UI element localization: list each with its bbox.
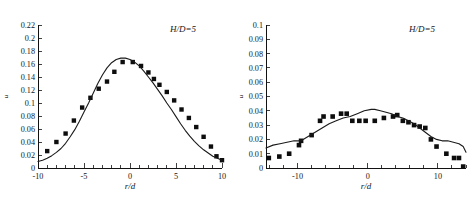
data-point — [452, 156, 457, 161]
x-tick-label: -10 — [292, 172, 303, 181]
figure-container: 00.020.040.060.080.10.120.140.160.180.20… — [0, 0, 476, 198]
y-tick-label: 0.1 — [253, 21, 263, 30]
x-tick-label: 5 — [174, 172, 178, 181]
y-tick-label: 0.2 — [25, 34, 35, 43]
y-tick-label: 0.04 — [249, 107, 263, 116]
data-point — [165, 90, 169, 94]
data-point — [297, 143, 302, 148]
data-point-group — [267, 111, 466, 169]
data-point — [461, 164, 466, 169]
y-tick-label: 0.22 — [21, 21, 35, 30]
data-point — [54, 140, 58, 144]
y-tick-label: 0.18 — [21, 47, 35, 56]
chart-svg-right: 00.010.020.030.040.050.060.070.080.090.1… — [238, 0, 476, 198]
data-point — [287, 151, 292, 156]
x-tick-label: 0 — [366, 172, 370, 181]
data-point — [146, 70, 150, 74]
data-point — [382, 116, 387, 121]
data-point — [350, 119, 355, 124]
y-tick-label: 0.01 — [249, 150, 263, 159]
data-point — [72, 118, 76, 122]
data-point — [187, 116, 191, 120]
data-point — [209, 144, 213, 148]
data-point — [457, 156, 462, 161]
y-tick-label: 0.08 — [21, 112, 35, 121]
y-tick-label: 0.08 — [249, 50, 263, 59]
x-tick-label: -5 — [81, 172, 88, 181]
data-point — [363, 119, 368, 124]
chart-svg-left: 00.020.040.060.080.10.120.140.160.180.20… — [0, 0, 238, 198]
y-tick-label: 0.14 — [21, 73, 35, 82]
data-point — [277, 154, 282, 159]
data-point — [372, 119, 377, 124]
data-point — [112, 70, 116, 74]
chart-panel-right: 00.010.020.030.040.050.060.070.080.090.1… — [238, 0, 476, 198]
data-point — [444, 151, 449, 156]
data-point — [157, 83, 161, 87]
panel-annotation: H/D=5 — [408, 24, 436, 34]
y-tick-label: 0.02 — [21, 151, 35, 160]
data-point — [80, 105, 84, 109]
data-point — [63, 131, 67, 135]
data-point — [179, 107, 183, 111]
data-point-group — [45, 60, 224, 163]
data-point — [172, 98, 176, 102]
y-tick-label: 0.1 — [25, 99, 35, 108]
data-point — [344, 111, 349, 116]
y-tick-label: 0.04 — [21, 138, 35, 147]
x-tick-label: 0 — [128, 172, 132, 181]
y-tick-label: 0 — [259, 164, 263, 173]
data-point — [194, 125, 198, 129]
data-point — [339, 111, 344, 116]
y-tick-label: 0.09 — [249, 35, 263, 44]
data-point — [318, 119, 323, 124]
data-point — [321, 114, 326, 119]
y-axis-title: u — [238, 94, 245, 98]
y-tick-label: 0.06 — [249, 78, 263, 87]
data-point — [105, 79, 109, 83]
y-tick-label: 0.06 — [21, 125, 35, 134]
y-tick-label: 0.07 — [249, 64, 263, 73]
data-point — [152, 77, 156, 81]
data-point — [357, 119, 362, 124]
x-axis-title: r/d — [125, 181, 136, 191]
model-curve — [38, 58, 222, 161]
x-tick-label: 10 — [434, 172, 442, 181]
y-tick-label: 0.03 — [249, 121, 263, 130]
data-point — [267, 156, 272, 161]
x-tick-label: 10 — [218, 172, 226, 181]
data-point — [201, 135, 205, 139]
y-tick-label: 0.16 — [21, 60, 35, 69]
panel-annotation: H/D=5 — [169, 24, 197, 34]
data-point — [97, 87, 101, 91]
data-point — [423, 126, 428, 131]
x-tick-label: -10 — [33, 172, 44, 181]
chart-panel-left: 00.020.040.060.080.10.120.140.160.180.20… — [0, 0, 238, 198]
data-point — [45, 149, 49, 153]
data-point — [330, 114, 335, 119]
data-point — [434, 144, 439, 149]
y-axis-title: u — [2, 94, 10, 98]
y-tick-label: 0.12 — [21, 86, 35, 95]
y-tick-label: 0.05 — [249, 92, 263, 101]
x-axis-title: r/d — [361, 181, 372, 191]
y-tick-label: 0.02 — [249, 135, 263, 144]
data-point — [120, 60, 124, 64]
